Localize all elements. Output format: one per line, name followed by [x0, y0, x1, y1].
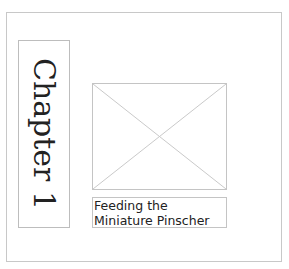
chapter-title: Chapter 1: [29, 58, 59, 210]
chapter-title-box: Chapter 1: [18, 40, 70, 228]
image-placeholder: [92, 83, 227, 190]
chapter-subtitle-line-2: Miniature Pinscher: [94, 213, 209, 228]
chapter-subtitle-line-1: Feeding the: [94, 198, 209, 213]
chapter-subtitle-box: Feeding the Miniature Pinscher: [92, 197, 227, 228]
chapter-subtitle: Feeding the Miniature Pinscher: [94, 198, 209, 228]
image-placeholder-icon: [93, 84, 226, 189]
